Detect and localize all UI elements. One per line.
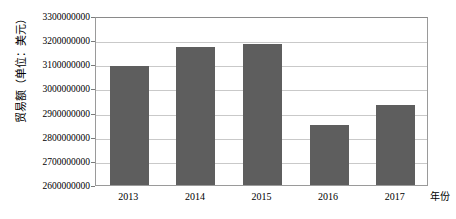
bar[interactable]: [376, 105, 415, 185]
x-axis-tick-label: 2013: [98, 190, 158, 204]
bar[interactable]: [243, 44, 282, 185]
y-axis-tick-mark: [91, 89, 95, 90]
y-axis-tick-mark: [91, 17, 95, 18]
x-axis-tick-label: 2014: [165, 190, 225, 204]
x-axis-tick-labels: 20132014201520162017: [95, 190, 428, 208]
y-axis-tick-mark: [91, 114, 95, 115]
y-axis-tick-mark: [91, 162, 95, 163]
y-axis-tick-label: 3200000000: [14, 36, 90, 46]
plot-area: [95, 17, 428, 186]
x-axis-tick-label: 2016: [298, 190, 358, 204]
bar[interactable]: [176, 47, 215, 185]
y-axis-tick-label: 3300000000: [14, 12, 90, 22]
y-axis-tick-label: 2900000000: [14, 109, 90, 119]
y-axis-tick-mark: [91, 138, 95, 139]
y-axis-tick-labels: 3300000000320000000031000000003000000000…: [14, 0, 90, 219]
x-axis-tick-label: 2015: [232, 190, 292, 204]
bar[interactable]: [110, 66, 149, 186]
bar-chart: 贸易额（单位：美元） 33000000003200000000310000000…: [0, 0, 456, 219]
y-axis-tick-label: 3100000000: [14, 60, 90, 70]
y-axis-tick-label: 2700000000: [14, 157, 90, 167]
y-axis-tick-label: 2600000000: [14, 181, 90, 191]
bars-layer: [96, 18, 427, 185]
x-axis-title: 年份: [430, 190, 450, 204]
y-axis-tick-mark: [91, 186, 95, 187]
bar[interactable]: [310, 125, 349, 185]
y-axis-tick-mark: [91, 65, 95, 66]
y-axis-tick-label: 2800000000: [14, 133, 90, 143]
y-axis-tick-mark: [91, 41, 95, 42]
y-axis-tick-label: 3000000000: [14, 84, 90, 94]
x-axis-tick-label: 2017: [365, 190, 425, 204]
